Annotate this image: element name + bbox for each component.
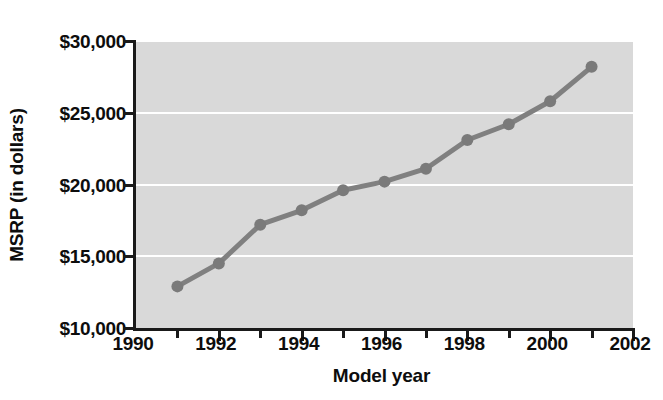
x-axis-tick-label: 1996 xyxy=(361,333,402,355)
y-axis-tick-label: $20,000 xyxy=(34,175,126,194)
data-point xyxy=(420,163,432,175)
x-axis-tick-label: 1998 xyxy=(444,333,485,355)
data-series-msrp xyxy=(136,41,633,328)
line-chart-figure: MSRP (in dollars) $10,000$15,000$20,000$… xyxy=(0,0,663,400)
y-axis-tick-label: $25,000 xyxy=(34,103,126,122)
data-point xyxy=(296,204,308,216)
x-axis-title: Model year xyxy=(133,365,630,387)
data-point xyxy=(254,219,266,231)
data-point xyxy=(461,134,473,146)
y-axis-tick xyxy=(123,184,136,187)
x-axis-tick-label-group: 1990199219941996199820002002 xyxy=(133,333,630,363)
y-axis-tick xyxy=(123,40,136,43)
data-point xyxy=(544,95,556,107)
x-axis-tick-label: 1992 xyxy=(195,333,236,355)
y-axis-tick-label: $15,000 xyxy=(34,247,126,266)
y-axis-tick-label: $30,000 xyxy=(34,32,126,51)
data-point xyxy=(337,184,349,196)
y-axis-title: MSRP (in dollars) xyxy=(0,42,34,328)
y-axis-tick xyxy=(123,327,136,330)
data-point xyxy=(586,61,598,73)
data-point xyxy=(171,280,183,292)
data-point xyxy=(213,257,225,269)
x-axis-tick-label: 1990 xyxy=(112,333,153,355)
data-point xyxy=(379,176,391,188)
y-axis-tick xyxy=(123,255,136,258)
x-axis-tick-label: 2000 xyxy=(527,333,568,355)
plot-area xyxy=(133,41,633,331)
data-point xyxy=(503,118,515,130)
x-axis-tick-label: 2002 xyxy=(609,333,650,355)
series-marker-group xyxy=(171,61,597,293)
y-axis-tick xyxy=(123,112,136,115)
x-axis-tick-label: 1994 xyxy=(278,333,319,355)
